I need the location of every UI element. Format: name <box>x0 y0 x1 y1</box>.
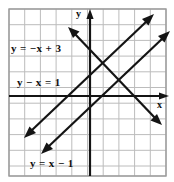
equation-label-y-minus-x-equals-1: y − x = 1 <box>17 76 61 88</box>
y-axis-label: y <box>76 8 81 19</box>
coordinate-graph <box>0 0 174 182</box>
x-axis-label: x <box>157 99 162 110</box>
equation-label-y-equals-neg-x-plus-3: y = −x + 3 <box>11 42 61 54</box>
equation-label-y-equals-x-minus-1: y = x − 1 <box>30 157 74 169</box>
